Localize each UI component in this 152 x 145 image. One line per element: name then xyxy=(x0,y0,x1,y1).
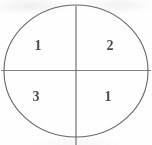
quadrant-label-lower-right: 1 xyxy=(100,90,116,104)
quadrant-circle-figure: ...................... 1 2 3 1 xyxy=(0,0,152,145)
quadrant-label-upper-left: 1 xyxy=(30,39,46,53)
circle-diagram-svg xyxy=(0,0,152,145)
quadrant-label-lower-left: 3 xyxy=(28,90,44,104)
quadrant-label-upper-right: 2 xyxy=(102,39,118,53)
